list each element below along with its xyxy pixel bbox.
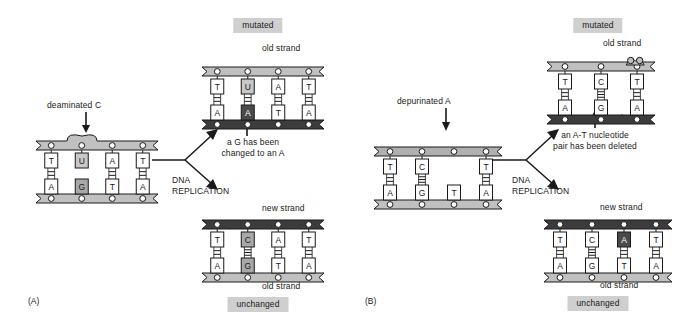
svg-text:T: T [49, 156, 54, 166]
svg-text:T: T [215, 82, 220, 92]
svg-text:C: C [419, 162, 425, 172]
svg-text:A: A [214, 261, 220, 271]
svg-text:C: C [589, 235, 595, 245]
svg-text:A: A [48, 182, 54, 192]
svg-text:U: U [245, 82, 251, 92]
svg-text:A: A [483, 188, 489, 198]
label-old-strand-mutated-b: old strand [603, 38, 641, 49]
svg-text:G: G [589, 261, 596, 271]
svg-text:A: A [275, 235, 281, 245]
svg-text:G: G [78, 182, 85, 192]
svg-text:A: A [214, 108, 220, 118]
svg-text:T: T [653, 235, 658, 245]
svg-text:A: A [140, 182, 146, 192]
svg-text:C: C [245, 235, 251, 245]
svg-text:A: A [621, 235, 627, 245]
svg-text:T: T [306, 82, 311, 92]
badge-unchanged-b: unchanged [568, 296, 629, 311]
svg-text:A: A [562, 103, 568, 113]
svg-text:T: T [140, 156, 145, 166]
svg-text:T: T [110, 182, 115, 192]
svg-text:T: T [562, 77, 567, 87]
badge-mutated-a: mutated [233, 18, 282, 33]
panel-label-a: (A) [28, 296, 39, 306]
svg-text:T: T [387, 162, 392, 172]
dna-mutation-figure: mutated old strand deaminated C new stra… [0, 0, 690, 314]
panel-b: mutated old strand depurinated A new str… [345, 0, 690, 314]
note-deleted-line2: pair has been deleted [553, 141, 637, 152]
svg-text:G: G [419, 188, 426, 198]
svg-text:G: G [244, 261, 251, 271]
svg-text:T: T [306, 235, 311, 245]
svg-text:A: A [387, 188, 393, 198]
svg-text:A: A [275, 82, 281, 92]
svg-text:A: A [245, 108, 251, 118]
svg-text:A: A [653, 261, 659, 271]
svg-text:U: U [79, 156, 85, 166]
lesion-arrow-b [438, 108, 454, 132]
svg-text:G: G [598, 103, 605, 113]
svg-text:A: A [109, 156, 115, 166]
svg-text:T: T [276, 108, 281, 118]
svg-text:T: T [215, 235, 220, 245]
svg-text:T: T [483, 162, 488, 172]
svg-text:T: T [276, 261, 281, 271]
svg-text:A: A [634, 103, 640, 113]
svg-text:T: T [634, 77, 639, 87]
svg-text:T: T [557, 235, 562, 245]
svg-text:T: T [451, 188, 456, 198]
note-g-changed-line2: changed to an A [222, 148, 285, 159]
panel-label-b: (B) [365, 296, 376, 306]
svg-text:T: T [621, 261, 626, 271]
svg-text:A: A [306, 261, 312, 271]
label-old-strand-mutated-a: old strand [262, 43, 300, 54]
svg-text:C: C [598, 77, 604, 87]
label-deaminated-c: deaminated C [47, 100, 101, 111]
panel-a: mutated old strand deaminated C new stra… [0, 0, 345, 314]
label-depurinated-a: depurinated A [397, 96, 451, 107]
svg-text:A: A [557, 261, 563, 271]
badge-unchanged-a: unchanged [228, 297, 289, 312]
badge-mutated-b: mutated [573, 18, 622, 33]
svg-text:A: A [306, 108, 312, 118]
